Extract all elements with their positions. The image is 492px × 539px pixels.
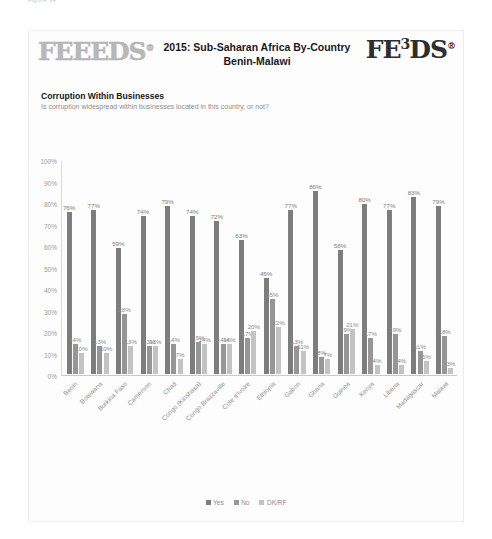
x-axis-label: Benin <box>62 380 79 397</box>
bar-value-label: 45% <box>260 270 272 277</box>
bar-yes[interactable]: 79% <box>165 206 170 374</box>
x-axis-label-cell: Cote d'Ivoire <box>234 377 259 431</box>
bar-value-label: 14% <box>223 336 235 343</box>
bar-yes[interactable]: 72% <box>214 221 219 374</box>
x-axis-label: Guinea <box>331 380 351 400</box>
y-axis-tick: 60% <box>44 244 57 251</box>
x-axis-label-cell: Ghana <box>309 377 334 431</box>
bar-dkrf[interactable]: 13% <box>128 346 133 374</box>
x-axis-label: Malawi <box>430 380 449 399</box>
bar-dkrf[interactable]: 20% <box>251 331 256 374</box>
x-axis-label-cell: Malawi <box>432 377 457 431</box>
bar-yes[interactable]: 86% <box>313 191 318 374</box>
bar-value-label: 13% <box>125 338 137 345</box>
bar-dkrf[interactable]: 6% <box>424 361 429 374</box>
bar-group: 77%19%4% <box>383 161 408 374</box>
page-title: 2015: Sub-Saharan Africa By-Country Beni… <box>147 40 367 68</box>
bar-value-label: 19% <box>389 326 401 333</box>
plot-area: 76%14%10%77%13%10%59%28%13%74%13%13%79%1… <box>61 161 457 376</box>
section-title: Corruption Within Businesses <box>41 91 164 101</box>
bar-dkrf[interactable]: 22% <box>276 327 281 374</box>
bar-group: 58%19%21% <box>334 161 359 374</box>
legend-swatch-icon <box>234 500 239 505</box>
bar-dkrf[interactable]: 14% <box>227 344 232 374</box>
x-axis-label: Ghana <box>307 380 326 399</box>
bar-dkrf[interactable]: 13% <box>153 346 158 374</box>
legend-swatch-icon <box>259 500 264 505</box>
bar-yes[interactable]: 74% <box>190 216 195 374</box>
bar-group: 45%35%22% <box>260 161 285 374</box>
bar-yes[interactable]: 77% <box>288 210 293 374</box>
bar-no[interactable]: 8% <box>319 357 324 374</box>
bar-value-label: 20% <box>248 323 260 330</box>
bar-no[interactable]: 18% <box>442 336 447 374</box>
bar-group: 72%14%14% <box>211 161 236 374</box>
fe3ds-logo-post: DS <box>409 35 447 64</box>
bar-dkrf[interactable]: 4% <box>375 365 380 374</box>
bar-no[interactable]: 13% <box>147 346 152 374</box>
bar-value-label: 13% <box>149 338 161 345</box>
bar-group: 77%13%10% <box>88 161 113 374</box>
bar-dkrf[interactable]: 7% <box>325 359 330 374</box>
legend-item[interactable]: DK/RF <box>259 499 286 506</box>
bar-no[interactable]: 15% <box>196 342 201 374</box>
legend-item[interactable]: Yes <box>206 499 224 506</box>
bar-dkrf[interactable]: 14% <box>202 344 207 374</box>
bar-value-label: 74% <box>186 208 198 215</box>
bar-dkrf[interactable]: 3% <box>448 368 453 374</box>
bar-dkrf[interactable]: 21% <box>350 329 355 374</box>
bar-value-label: 74% <box>137 208 149 215</box>
bar-value-label: 11% <box>297 343 309 350</box>
bar-no[interactable]: 17% <box>368 338 373 374</box>
bar-no[interactable]: 13% <box>294 346 299 374</box>
bar-value-label: 14% <box>69 336 81 343</box>
bar-group: 86%8%7% <box>309 161 334 374</box>
x-axis-label: Liberia <box>381 380 400 399</box>
bar-group: 80%17%4% <box>359 161 384 374</box>
bar-value-label: 28% <box>118 306 130 313</box>
bar-value-label: 83% <box>408 189 420 196</box>
y-axis-tick: 10% <box>44 351 57 358</box>
bar-no[interactable]: 17% <box>245 338 250 374</box>
bar-groups: 76%14%10%77%13%10%59%28%13%74%13%13%79%1… <box>63 161 457 374</box>
bar-yes[interactable]: 63% <box>239 240 244 374</box>
bar-dkrf[interactable]: 11% <box>301 351 306 374</box>
bar-yes[interactable]: 80% <box>362 204 367 374</box>
legend-swatch-icon <box>206 500 211 505</box>
bar-value-label: 3% <box>446 360 455 367</box>
bar-no[interactable]: 19% <box>393 334 398 374</box>
bar-no[interactable]: 19% <box>344 334 349 374</box>
bar-yes[interactable]: 77% <box>91 210 96 374</box>
legend-item[interactable]: No <box>234 499 250 506</box>
bar-yes[interactable]: 74% <box>141 216 146 374</box>
bar-value-label: 63% <box>235 232 247 239</box>
bar-value-label: 14% <box>168 336 180 343</box>
bar-group: 74%15%14% <box>186 161 211 374</box>
bar-dkrf[interactable]: 10% <box>104 353 109 374</box>
bar-no[interactable]: 35% <box>270 299 275 374</box>
bar-dkrf[interactable]: 7% <box>178 359 183 374</box>
fe3ds-logo-superscript: 3 <box>401 36 410 52</box>
bar-group: 74%13%13% <box>137 161 162 374</box>
x-axis-label-cell: Cameroon <box>135 377 160 431</box>
bar-value-label: 79% <box>432 198 444 205</box>
bar-dkrf[interactable]: 10% <box>79 353 84 374</box>
bar-dkrf[interactable]: 4% <box>399 365 404 374</box>
bar-value-label: 22% <box>272 319 284 326</box>
bar-value-label: 72% <box>211 213 223 220</box>
bar-value-label: 7% <box>176 351 185 358</box>
bar-yes[interactable]: 76% <box>67 212 72 374</box>
bar-yes[interactable]: 58% <box>338 250 343 374</box>
feeeds-logo: FEEEDS® <box>38 37 154 66</box>
fe3ds-logo-pre: FE <box>366 35 401 64</box>
bar-yes[interactable]: 77% <box>387 210 392 374</box>
bar-group: 79%18%3% <box>432 161 457 374</box>
bar-yes[interactable]: 79% <box>436 206 441 374</box>
bar-value-label: 17% <box>365 330 377 337</box>
bar-no[interactable]: 14% <box>171 344 176 374</box>
x-axis-label-cell: Kenya <box>358 377 383 431</box>
bar-value-label: 21% <box>346 321 358 328</box>
bar-value-label: 59% <box>112 240 124 247</box>
bar-value-label: 80% <box>358 196 370 203</box>
bar-no[interactable]: 14% <box>221 344 226 374</box>
